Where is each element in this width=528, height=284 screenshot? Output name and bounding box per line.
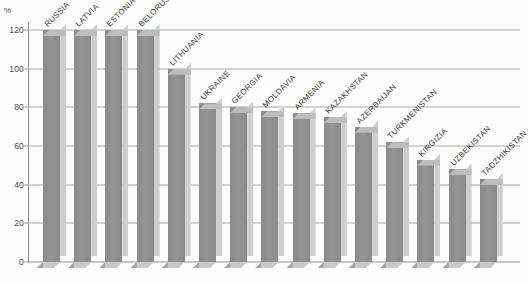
bar	[349, 127, 378, 262]
bar-front	[168, 69, 185, 262]
bar-side	[310, 107, 316, 256]
bar-front	[43, 30, 60, 262]
y-tick-label: 60	[4, 141, 24, 151]
bar-chart: % 020406080100120 RUSSIALATVIAESTONIABEL…	[0, 0, 528, 284]
bar	[131, 30, 160, 262]
bar	[474, 179, 503, 262]
bar-foot	[68, 262, 74, 268]
bar-side	[216, 97, 222, 256]
bar-foot	[287, 262, 293, 268]
bar-front	[137, 30, 154, 262]
bar-foot	[474, 262, 480, 268]
category-label: RUSSIA	[43, 0, 72, 29]
bar-front	[355, 127, 372, 262]
bar-side	[91, 24, 97, 256]
bar	[162, 69, 191, 262]
bar-front	[417, 160, 434, 262]
category-label: ESTONIA	[105, 0, 138, 29]
category-label: MOLDAVIA	[261, 73, 298, 110]
bar-foot	[411, 262, 417, 268]
bar-front	[293, 113, 310, 262]
category-label: BELORUSSIA	[136, 0, 181, 29]
bar-front	[230, 107, 247, 262]
category-label: KAZAKHSTAN	[324, 70, 370, 116]
bar-foot	[37, 262, 43, 268]
bar	[411, 160, 440, 262]
bar-side	[185, 63, 191, 256]
bar-foot	[380, 262, 386, 268]
category-label: AZERBAIJAN	[355, 82, 398, 125]
bar	[443, 169, 472, 262]
y-tick-label: 120	[4, 25, 24, 35]
bar	[68, 30, 97, 262]
category-label: UKRAINE	[199, 69, 232, 102]
category-label: KIRGIZIA	[417, 126, 449, 158]
y-tick-label: 100	[4, 64, 24, 74]
bar	[99, 30, 128, 262]
y-tick-label: 80	[4, 102, 24, 112]
bar	[224, 107, 253, 262]
bar	[380, 142, 409, 262]
bar-side	[278, 105, 284, 256]
bar-foot	[255, 262, 261, 268]
bar	[255, 111, 284, 262]
bar-side	[60, 24, 66, 256]
bar-front	[480, 179, 497, 262]
bar	[37, 30, 66, 262]
y-tick-label: 40	[4, 180, 24, 190]
bar-foot	[99, 262, 105, 268]
bar-foot	[224, 262, 230, 268]
bar-side	[403, 136, 409, 256]
y-axis-line	[28, 22, 29, 262]
bar-front	[449, 169, 466, 262]
category-label: LITHUANIA	[168, 30, 206, 68]
bar-side	[372, 121, 378, 256]
y-tick-label: 0	[4, 257, 24, 267]
category-label: TADZHIKISTAN	[480, 129, 528, 178]
bar-side	[497, 173, 503, 256]
category-label: GEORGIA	[230, 72, 264, 106]
bar-foot	[443, 262, 449, 268]
bar-foot	[193, 262, 199, 268]
plot-area: RUSSIALATVIAESTONIABELORUSSIALITHUANIAUK…	[28, 0, 528, 284]
bar-front	[261, 111, 278, 262]
bar	[193, 103, 222, 262]
bar-foot	[131, 262, 137, 268]
bar-side	[247, 101, 253, 256]
bar	[287, 113, 316, 262]
bar-front	[386, 142, 403, 262]
bar-side	[122, 24, 128, 256]
bar-front	[74, 30, 91, 262]
y-tick-label: 20	[4, 218, 24, 228]
bar-front	[199, 103, 216, 262]
bar-front	[324, 117, 341, 262]
bar-side	[466, 163, 472, 256]
y-axis-tick-labels: 020406080100120	[0, 0, 24, 284]
bar-side	[434, 154, 440, 256]
bar-foot	[318, 262, 324, 268]
bar-foot	[349, 262, 355, 268]
bar-side	[341, 111, 347, 256]
category-label: TURKMENISTAN	[386, 88, 439, 141]
bar-foot	[162, 262, 168, 268]
bar	[318, 117, 347, 262]
bar-front	[105, 30, 122, 262]
bar-side	[154, 24, 160, 256]
